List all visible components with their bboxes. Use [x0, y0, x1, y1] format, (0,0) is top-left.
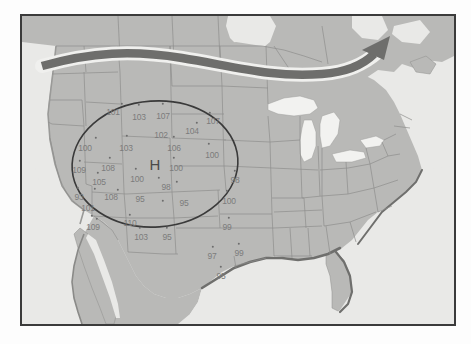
screenshot-page: H 10110310710710410210010310610010910810… — [0, 0, 471, 344]
map-canvas — [22, 16, 454, 324]
weather-map-frame: H 10110310710710410210010310610010910810… — [20, 14, 456, 326]
high-pressure-symbol: H — [150, 156, 161, 173]
